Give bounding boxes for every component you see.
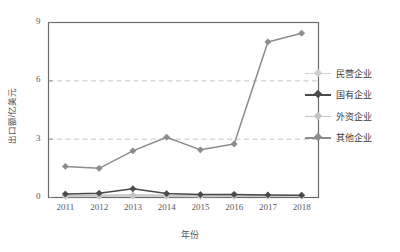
y-axis-title: 出口额/亿美元 (5, 84, 17, 148)
legend-label: 外资企业 (336, 110, 372, 123)
y-tick-label: 0 (25, 191, 41, 201)
x-tick-label: 2013 (116, 202, 150, 212)
line-chart: 出口额/亿美元 年份 9630 201120122013201420152016… (0, 0, 400, 252)
legend-label: 其他企业 (336, 131, 372, 144)
x-tick-label: 2015 (183, 202, 217, 212)
y-tick-label: 6 (25, 74, 41, 84)
legend-label: 国有企业 (336, 88, 372, 101)
x-tick-label: 2014 (150, 202, 184, 212)
legend-marker-icon (305, 110, 331, 122)
legend-marker-icon (305, 67, 331, 79)
y-tick-label: 3 (25, 133, 41, 143)
legend-marker-icon (305, 132, 331, 144)
x-axis-title: 年份 (150, 228, 230, 241)
plot-area (0, 0, 400, 252)
legend-marker-icon (305, 89, 331, 101)
legend-item-2[interactable]: 国有企业 (305, 88, 372, 102)
x-tick-label: 2016 (217, 202, 251, 212)
legend-item-4[interactable]: 其他企业 (305, 131, 372, 145)
legend-item-3[interactable]: 外资企业 (305, 109, 372, 123)
x-tick-label: 2018 (285, 202, 319, 212)
x-tick-label: 2017 (251, 202, 285, 212)
legend-label: 民营企业 (336, 67, 372, 80)
legend-item-1[interactable]: 民营企业 (305, 66, 372, 80)
x-tick-label: 2011 (48, 202, 82, 212)
x-tick-label: 2012 (82, 202, 116, 212)
y-tick-label: 9 (25, 16, 41, 26)
